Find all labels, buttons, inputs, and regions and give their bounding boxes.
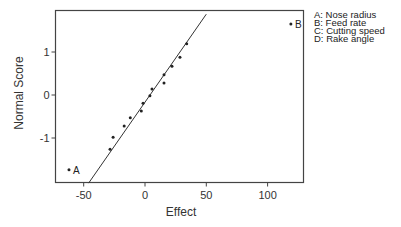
data-point [185,42,188,45]
data-point [123,124,126,127]
x-axis-ticks: -50050100 [76,183,277,201]
data-point [142,102,145,105]
data-point [163,81,166,84]
data-point [170,65,173,68]
plot-frame [56,11,304,183]
data-point [129,116,132,119]
y-axis-ticks: -101 [40,46,56,144]
data-point [67,168,70,171]
y-tick-label: 0 [43,89,49,101]
reference-line [89,14,207,183]
data-point [109,148,112,151]
legend: A: Nose radius B: Feed rate C: Cutting s… [314,11,385,43]
data-point [150,87,153,90]
y-tick-label: -1 [40,132,50,144]
data-points: AB [67,19,301,176]
y-tick-label: 1 [43,46,49,58]
y-axis-label: Normal Score [12,56,26,129]
point-label: B [295,19,302,30]
data-point [112,136,115,139]
legend-item-d: D: Rake angle [314,35,385,43]
x-tick-label: -50 [76,189,92,201]
x-axis-label: Effect [166,205,196,219]
x-tick-label: 100 [258,189,276,201]
data-point [140,109,143,112]
x-tick-label: 0 [142,189,148,201]
data-point [148,94,151,97]
data-point [178,56,181,59]
data-point [163,73,166,76]
x-tick-label: 50 [200,189,212,201]
data-point [289,23,292,26]
point-label: A [73,165,80,176]
